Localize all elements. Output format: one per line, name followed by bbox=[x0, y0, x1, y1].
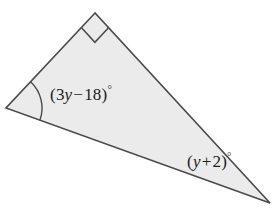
interior-angle-degree-symbol: ° bbox=[107, 83, 112, 95]
triangle-shape bbox=[6, 13, 270, 203]
bottom-right-angle-constant: 2 bbox=[212, 152, 221, 171]
interior-angle-operator: − bbox=[72, 85, 84, 104]
bottom-right-angle-variable: y bbox=[193, 152, 201, 171]
interior-angle-coefficient: 3 bbox=[56, 85, 65, 104]
interior-angle-label: (3y−18)° bbox=[50, 86, 112, 103]
bottom-right-angle-operator: + bbox=[201, 152, 213, 171]
bottom-right-angle-degree-symbol: ° bbox=[227, 150, 232, 162]
interior-angle-constant: 18 bbox=[84, 85, 101, 104]
bottom-right-angle-label: (y+2)° bbox=[187, 153, 232, 170]
geometry-figure: (3y−18)° (y+2)° bbox=[0, 0, 277, 216]
triangle-diagram-svg bbox=[0, 0, 277, 216]
